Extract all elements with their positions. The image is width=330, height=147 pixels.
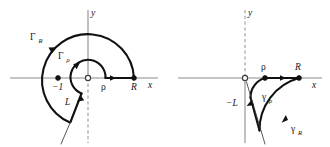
left-label-ray-L: L	[64, 97, 70, 107]
right-point-R	[297, 76, 302, 81]
right-segment-arrowhead	[280, 75, 286, 81]
right-gamma-R-arrowhead	[282, 115, 288, 123]
left-ray-L-thin-extension	[61, 122, 71, 144]
left-point-origin	[85, 75, 90, 80]
left-label-minus-one: −1	[52, 82, 63, 92]
right-label-rho: ρ	[261, 62, 266, 72]
left-label-gamma-rho-sub: ρ	[66, 56, 70, 63]
right-point-rho	[263, 76, 268, 81]
left-point-R	[132, 76, 137, 81]
left-ray-L-arrowhead	[77, 96, 84, 102]
left-label-R: R	[130, 82, 137, 92]
left-label-rho: ρ	[101, 82, 106, 92]
left-label-x-axis: x	[147, 80, 153, 90]
right-label-R: R	[294, 62, 301, 72]
right-label-ray-minus-L: −L	[226, 98, 238, 108]
left-label-gamma-R-sub: R	[38, 37, 43, 44]
left-panel: Γ R Γ ρ L −1 ρ R x y	[10, 8, 158, 144]
right-point-origin	[242, 75, 247, 80]
right-label-y-axis: y	[247, 8, 253, 18]
right-label-gamma-rho-base: γ	[261, 92, 266, 102]
left-point-minus-one	[56, 76, 61, 81]
right-label-x-axis: x	[311, 80, 317, 90]
left-label-gamma-R-base: Γ	[30, 32, 36, 42]
figure-root: Γ R Γ ρ L −1 ρ R x y	[0, 0, 330, 147]
right-panel: ρ R γ ρ γ R −L x y	[178, 8, 322, 144]
right-label-gamma-rho-sub: ρ	[268, 97, 272, 104]
right-label-gamma-R-sub: R	[297, 129, 302, 136]
right-gamma-R-arc	[259, 78, 299, 131]
left-label-y-axis: y	[90, 8, 96, 18]
contour-figure-svg: Γ R Γ ρ L −1 ρ R x y	[0, 0, 330, 147]
right-label-gamma-R-base: γ	[290, 124, 295, 134]
left-gamma-R-arrowhead	[49, 47, 57, 53]
left-label-gamma-rho-base: Γ	[58, 51, 64, 61]
left-segment-arrowhead	[110, 75, 116, 81]
